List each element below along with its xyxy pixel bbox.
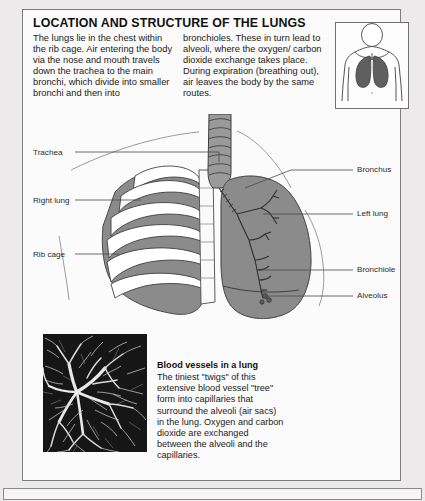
lung-anatomy-illustration bbox=[23, 114, 402, 324]
page-title: LOCATION AND STRUCTURE OF THE LUNGS bbox=[33, 16, 306, 30]
content-panel: LOCATION AND STRUCTURE OF THE LUNGS The … bbox=[22, 9, 401, 481]
label-left-lung: Left lung bbox=[357, 209, 388, 218]
photo-caption-heading: Blood vessels in a lung bbox=[157, 360, 285, 371]
footer-separator-bar bbox=[3, 488, 422, 500]
lung-diagram-svg bbox=[23, 114, 402, 324]
blood-vessel-photograph bbox=[43, 334, 147, 452]
intro-column-right: bronchioles. These in turn lead to alveo… bbox=[183, 33, 323, 100]
intro-text-right: bronchioles. These in turn lead to alveo… bbox=[183, 33, 323, 100]
label-alveolus: Alveolus bbox=[357, 291, 388, 300]
photo-caption-body: The tiniest "twigs" of this extensive bl… bbox=[157, 372, 285, 462]
label-bronchiole: Bronchiole bbox=[357, 265, 395, 274]
intro-column-left: The lungs lie in the chest within the ri… bbox=[33, 33, 173, 100]
photo-caption: Blood vessels in a lung The tiniest "twi… bbox=[157, 360, 285, 462]
lung-vasculature-image bbox=[43, 334, 147, 452]
page-root: LOCATION AND STRUCTURE OF THE LUNGS The … bbox=[0, 0, 425, 501]
intro-text-left: The lungs lie in the chest within the ri… bbox=[33, 33, 173, 100]
label-rib-cage: Rib cage bbox=[33, 250, 65, 259]
trachea-shape bbox=[208, 114, 231, 188]
label-bronchus: Bronchus bbox=[357, 165, 391, 174]
human-torso-with-lungs-icon bbox=[336, 23, 408, 108]
label-trachea: Trachea bbox=[33, 148, 62, 157]
label-right-lung: Right lung bbox=[33, 196, 69, 205]
torso-inset-box bbox=[335, 22, 409, 109]
